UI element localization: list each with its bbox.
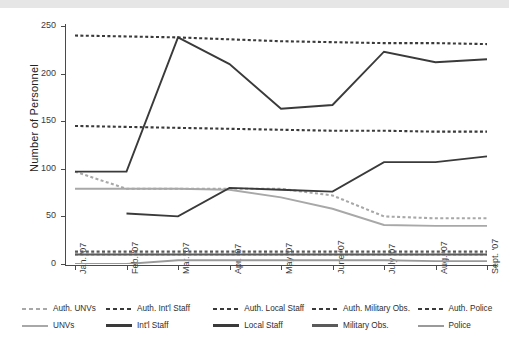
legend-swatch-icon [312, 324, 338, 327]
legend-item[interactable]: Int'l Staff [106, 317, 213, 334]
x-tick-mark [127, 266, 128, 270]
legend-row-actual: UNVsInt'l StaffLocal StaffMilitary Obs.P… [22, 317, 500, 334]
legend-swatch-icon [418, 325, 444, 327]
chart-legend: Auth. UNVsAuth. Int'l StaffAuth. Local S… [22, 300, 500, 340]
series-line [75, 189, 487, 226]
x-tick-mark [487, 266, 488, 270]
series-line [127, 156, 488, 216]
series-line [75, 260, 487, 264]
line-chart: Number of Personnel 050100150200250 Jan.… [0, 8, 509, 340]
series-line [75, 37, 487, 171]
legend-label: Auth. UNVs [53, 304, 96, 313]
y-tick-mark [61, 216, 65, 217]
x-tick-mark [230, 266, 231, 270]
series-line [75, 172, 487, 219]
series-svg [66, 26, 496, 264]
y-tick-label: 150 [0, 116, 56, 125]
legend-label: Auth. Int'l Staff [137, 304, 190, 313]
legend-label: UNVs [53, 321, 74, 330]
legend-item[interactable]: Auth. Local Staff [213, 300, 312, 317]
legend-label: Int'l Staff [137, 321, 168, 330]
legend-item[interactable]: UNVs [22, 317, 106, 334]
legend-label: Auth. Local Staff [244, 304, 304, 313]
legend-swatch-icon [312, 308, 338, 310]
y-tick-mark [61, 74, 65, 75]
legend-swatch-icon [418, 308, 444, 310]
legend-item[interactable]: Auth. UNVs [22, 300, 106, 317]
legend-label: Auth. Police [449, 304, 493, 313]
legend-swatch-icon [22, 325, 48, 327]
legend-swatch-icon [106, 324, 132, 327]
y-tick-label: 200 [0, 69, 56, 78]
x-tick-mark [281, 266, 282, 270]
y-tick-label: 50 [0, 211, 56, 220]
plot-area [66, 26, 496, 264]
legend-label: Military Obs. [343, 321, 389, 330]
legend-label: Local Staff [244, 321, 283, 330]
y-tick-mark [61, 264, 65, 265]
y-tick-mark [61, 169, 65, 170]
legend-swatch-icon [106, 308, 132, 310]
legend-swatch-icon [213, 324, 239, 327]
legend-item[interactable]: Auth. Military Obs. [312, 300, 417, 317]
legend-swatch-icon [22, 308, 48, 310]
y-tick-label: 100 [0, 164, 56, 173]
y-tick-mark [61, 26, 65, 27]
legend-swatch-icon [213, 308, 239, 310]
x-tick-mark [75, 266, 76, 270]
y-tick-label: 250 [0, 21, 56, 30]
x-tick-mark [333, 266, 334, 270]
x-tick-mark [436, 266, 437, 270]
x-tick-mark [384, 266, 385, 270]
series-line [75, 36, 487, 45]
y-tick-label: 0 [0, 259, 56, 268]
legend-item[interactable]: Auth. Int'l Staff [106, 300, 213, 317]
legend-row-authorized: Auth. UNVsAuth. Int'l StaffAuth. Local S… [22, 300, 500, 317]
x-tick-mark [178, 266, 179, 270]
legend-item[interactable]: Military Obs. [312, 317, 417, 334]
legend-label: Police [449, 321, 471, 330]
top-gray-band [0, 0, 509, 8]
y-tick-mark [61, 121, 65, 122]
legend-item[interactable]: Local Staff [213, 317, 312, 334]
legend-label: Auth. Military Obs. [343, 304, 410, 313]
legend-item[interactable]: Police [418, 317, 500, 334]
legend-item[interactable]: Auth. Police [418, 300, 500, 317]
series-line [75, 126, 487, 132]
